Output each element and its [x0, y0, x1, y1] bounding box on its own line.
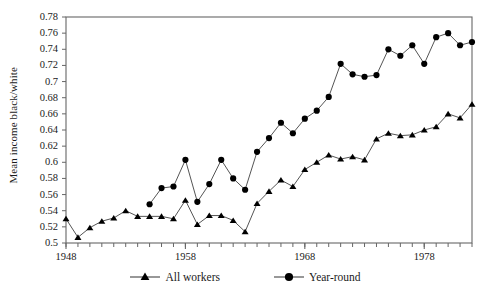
data-point [469, 101, 476, 107]
data-point [218, 157, 224, 163]
data-point [397, 53, 403, 59]
data-point [242, 187, 248, 193]
data-point [182, 197, 189, 203]
data-point [63, 216, 70, 222]
data-point [230, 175, 236, 181]
data-point [86, 225, 93, 231]
y-tick-label: 0.76 [24, 28, 58, 38]
chart-legend: All workers Year-round [0, 266, 491, 288]
data-point [373, 136, 380, 142]
axes-layer [62, 17, 472, 249]
x-tick-label: 1958 [163, 252, 207, 262]
data-point [122, 208, 129, 214]
x-tick-label: 1968 [283, 252, 327, 262]
circle-marker-icon [274, 271, 304, 283]
data-point [409, 42, 415, 48]
y-tick-label: 0.52 [24, 222, 58, 232]
series-line-1 [150, 33, 472, 204]
y-tick-label: 0.78 [24, 12, 58, 22]
data-point [373, 72, 379, 78]
data-point [338, 61, 344, 67]
y-tick-label: 0.56 [24, 190, 58, 200]
y-tick-label: 0.68 [24, 93, 58, 103]
y-tick-label: 0.66 [24, 109, 58, 119]
plot-border [66, 17, 472, 243]
legend-label-all-workers: All workers [165, 271, 220, 283]
data-point [326, 94, 332, 100]
data-point [277, 177, 284, 183]
data-point [313, 159, 320, 165]
data-point [445, 111, 452, 117]
chart-plot-area [0, 0, 491, 294]
data-point [421, 61, 427, 67]
y-tick-label: 0.64 [24, 125, 58, 135]
data-point [361, 74, 367, 80]
data-point [230, 217, 237, 223]
data-point [433, 34, 439, 40]
data-point [278, 120, 284, 126]
series-line-0 [66, 104, 472, 237]
data-point [325, 152, 332, 158]
data-point [110, 215, 117, 221]
data-point [314, 108, 320, 114]
series-layer [63, 30, 476, 240]
data-point [349, 71, 355, 77]
data-point [194, 199, 200, 205]
data-point [266, 135, 272, 141]
x-tick-label: 1948 [44, 252, 88, 262]
y-axis-title-text: Mean income black/white [7, 67, 19, 184]
data-point [182, 157, 188, 163]
data-point [146, 201, 152, 207]
chart-figure: Mean income black/white 0.780.760.740.72… [0, 0, 491, 294]
data-point [158, 185, 164, 191]
y-tick-label: 0.7 [24, 77, 58, 87]
y-tick-label: 0.72 [24, 60, 58, 70]
y-tick-label: 0.62 [24, 141, 58, 151]
data-point [385, 130, 392, 136]
x-tick-label: 1978 [402, 252, 446, 262]
data-point [170, 183, 176, 189]
legend-item-all-workers: All workers [130, 271, 220, 283]
data-point [301, 167, 308, 173]
y-tick-label: 0.74 [24, 44, 58, 54]
y-tick-label: 0.5 [24, 238, 58, 248]
data-point [349, 154, 356, 160]
data-point [469, 39, 475, 45]
y-tick-label: 0.58 [24, 173, 58, 183]
legend-label-year-round: Year-round [309, 271, 361, 283]
y-tick-label: 0.54 [24, 206, 58, 216]
data-point [289, 184, 296, 190]
data-point [206, 181, 212, 187]
legend-item-year-round: Year-round [274, 271, 361, 283]
data-point [302, 116, 308, 122]
y-tick-label: 0.6 [24, 157, 58, 167]
triangle-marker-icon [130, 271, 160, 283]
page-bleed-artifact [250, 0, 380, 8]
data-point [254, 149, 260, 155]
data-point [457, 42, 463, 48]
data-point [385, 46, 391, 52]
y-axis-title: Mean income black/white [2, 0, 24, 250]
data-point [445, 30, 451, 36]
data-point [290, 130, 296, 136]
